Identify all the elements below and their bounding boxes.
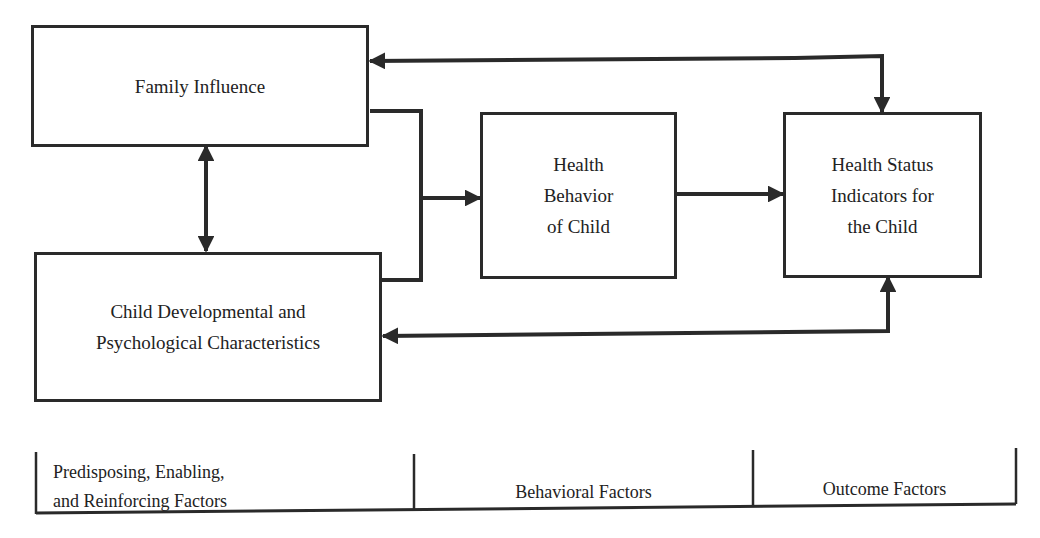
child-characteristics-label-line-2: Psychological Characteristics [96, 327, 320, 358]
footer-predisposing-line-2: and Reinforcing Factors [53, 487, 403, 516]
health-status-label-line-2: Indicators for [831, 180, 934, 211]
footer-outcome-factors: Outcome Factors [753, 475, 1016, 504]
health-behavior-label-line-1: Health [544, 149, 614, 180]
health-status-label-line-1: Health Status [831, 149, 934, 180]
health-status-label-line-3: the Child [831, 211, 934, 242]
health-behavior-box: Health Behavior of Child [480, 112, 677, 279]
child-characteristics-box: Child Developmental and Psychological Ch… [34, 252, 382, 402]
health-status-box: Health Status Indicators for the Child [783, 112, 982, 278]
edge-status-family [370, 56, 882, 112]
family-influence-box: Family Influence [31, 25, 369, 147]
footer-predisposing-line-1: Predisposing, Enabling, [53, 458, 403, 487]
health-behavior-label-line-3: of Child [544, 211, 614, 242]
footer-behavioral-line-1: Behavioral Factors [414, 478, 753, 507]
footer-behavioral-factors: Behavioral Factors [414, 478, 753, 507]
edge-status-child [383, 277, 888, 336]
family-influence-label: Family Influence [135, 71, 265, 102]
footer-outcome-line-1: Outcome Factors [753, 475, 1016, 504]
child-characteristics-label-line-1: Child Developmental and [96, 296, 320, 327]
health-behavior-label-line-2: Behavior [544, 180, 614, 211]
footer-predisposing-factors: Predisposing, Enabling, and Reinforcing … [53, 458, 403, 516]
